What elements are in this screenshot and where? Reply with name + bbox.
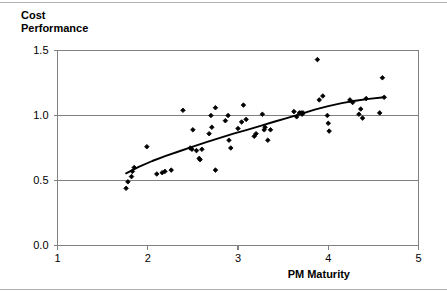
data-point <box>360 116 365 121</box>
y-tick-label: 0.5 <box>19 174 49 186</box>
x-tick-label: 5 <box>409 252 429 264</box>
data-point <box>358 107 363 112</box>
axes-group <box>58 51 419 246</box>
data-points-group <box>124 57 387 190</box>
data-point <box>326 121 331 126</box>
data-point <box>317 98 322 103</box>
data-point <box>124 186 129 191</box>
tick-marks-group <box>54 51 419 250</box>
data-point <box>213 168 218 173</box>
x-tick-label: 1 <box>48 252 68 264</box>
x-axis-title: PM Maturity <box>288 268 350 280</box>
data-point <box>292 109 297 114</box>
data-point <box>321 94 326 99</box>
data-point <box>325 113 330 118</box>
x-tick-label: 3 <box>228 252 248 264</box>
x-tick-label: 4 <box>318 252 338 264</box>
y-tick-label: 1.5 <box>19 44 49 56</box>
data-point <box>327 129 332 134</box>
data-point <box>265 138 270 143</box>
data-point <box>223 118 228 123</box>
data-point <box>181 108 186 113</box>
data-point <box>382 95 387 100</box>
data-point <box>241 103 246 108</box>
data-point <box>191 128 196 133</box>
data-point <box>239 120 244 125</box>
data-point <box>210 125 215 130</box>
y-tick-label: 0.0 <box>19 239 49 251</box>
data-point <box>268 128 273 133</box>
data-point <box>194 148 199 153</box>
data-point <box>377 111 382 116</box>
data-point <box>227 138 232 143</box>
data-point <box>207 131 212 136</box>
data-point <box>154 172 159 177</box>
chart-figure: Cost Performance 0.00.51.01.5 12345 PM M… <box>0 0 447 298</box>
data-point <box>236 126 241 131</box>
data-point <box>315 57 320 62</box>
data-point <box>213 105 218 110</box>
data-point <box>228 146 233 151</box>
data-point <box>129 174 134 179</box>
data-point <box>209 113 214 118</box>
data-point <box>244 117 249 122</box>
data-point <box>226 113 231 118</box>
data-point <box>380 76 385 81</box>
data-point <box>145 144 150 149</box>
y-tick-label: 1.0 <box>19 109 49 121</box>
gridlines-group <box>58 51 419 246</box>
data-point <box>169 168 174 173</box>
x-tick-label: 2 <box>138 252 158 264</box>
data-point <box>200 147 205 152</box>
